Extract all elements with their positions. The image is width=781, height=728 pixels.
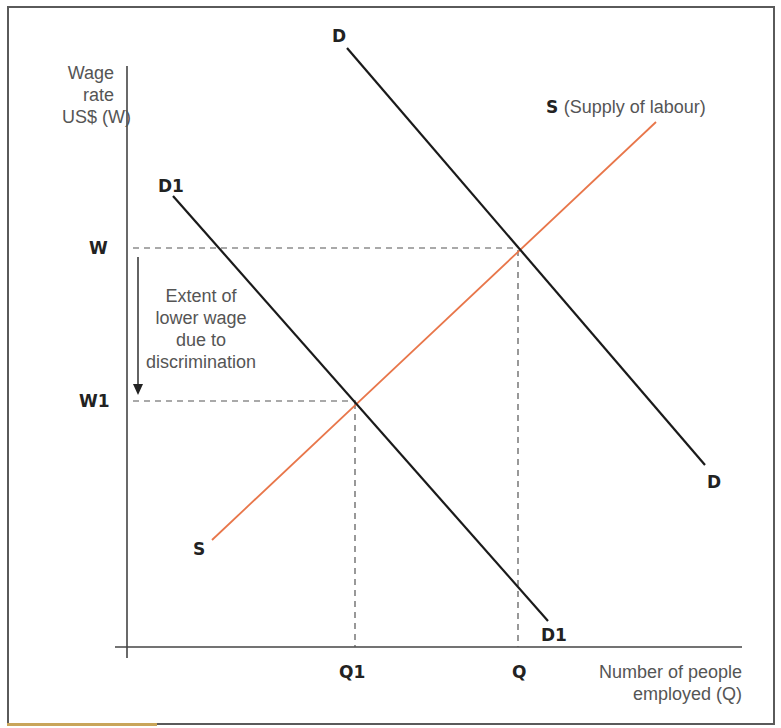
tick-w: W bbox=[89, 237, 108, 259]
label-s-bottom: S bbox=[193, 538, 205, 560]
x-axis-label-line: Number of people bbox=[570, 661, 742, 683]
arrow-head-icon bbox=[133, 384, 143, 395]
discrimination-annotation: Extent of lower wage due to discriminati… bbox=[140, 285, 262, 373]
x-axis-label: Number of people employed (Q) bbox=[570, 661, 742, 705]
label-d1-bottom: D1 bbox=[541, 624, 567, 646]
annotation-line: Extent of bbox=[140, 285, 262, 307]
y-axis-label-line: Wage bbox=[62, 62, 114, 84]
y-axis-label: Wage rate US$ (W) bbox=[62, 62, 114, 128]
label-s-top-text: (Supply of labour) bbox=[564, 97, 706, 117]
annotation-line: due to bbox=[140, 329, 262, 351]
annotation-line: discrimination bbox=[140, 351, 262, 373]
label-s-top: S (Supply of labour) bbox=[546, 96, 706, 118]
y-axis-label-line: rate bbox=[62, 84, 114, 106]
tick-q: Q bbox=[512, 661, 526, 683]
label-d-bottom: D bbox=[707, 471, 721, 493]
x-axis-label-line: employed (Q) bbox=[570, 683, 742, 705]
annotation-line: lower wage bbox=[140, 307, 262, 329]
tick-w1: W1 bbox=[79, 390, 110, 412]
label-d-top: D bbox=[332, 25, 346, 47]
tick-q1: Q1 bbox=[339, 661, 365, 683]
label-d1-top: D1 bbox=[158, 175, 184, 197]
demand-curve-d1 bbox=[173, 196, 548, 621]
y-axis-label-line: US$ (W) bbox=[62, 106, 114, 128]
label-s-top-letter: S bbox=[546, 97, 558, 117]
